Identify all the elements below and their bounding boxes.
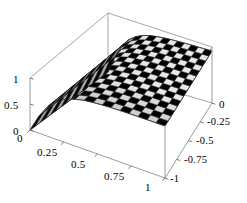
y-tick-label-0: 0	[219, 99, 225, 110]
surface-plot-figure: 1 0.5 0 0 0.25 0.5 0.75 1 0 -0.25 -0.5 -…	[0, 0, 247, 203]
z-tick-label-1: 1	[13, 74, 19, 85]
surface-mesh	[30, 36, 212, 130]
z-tick-label-0-5: 0.5	[4, 100, 19, 111]
x-tick-label-0: 0	[17, 133, 23, 144]
y-tick-label-neg1: -1	[170, 174, 179, 185]
x-tick-label-1: 1	[145, 182, 151, 193]
z-axis-ticks	[30, 78, 34, 131]
y-tick-label-neg0-5: -0.5	[196, 136, 214, 147]
x-tick-label-0-25: 0.25	[37, 147, 57, 158]
y-tick-label-neg0-25: -0.25	[207, 117, 230, 128]
x-tick-label-0-5: 0.5	[71, 159, 86, 170]
y-tick-label-neg0-75: -0.75	[184, 155, 207, 166]
x-tick-label-0-75: 0.75	[104, 171, 124, 182]
